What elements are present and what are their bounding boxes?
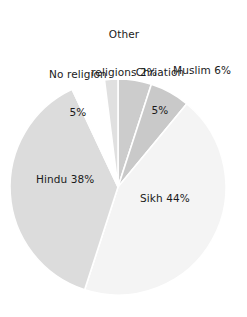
- slice-label-christian: Chriation 5%: [125, 41, 195, 141]
- slice-label-no-religion-line1: No religion: [38, 68, 118, 81]
- slice-label-no-religion-line2: 5%: [38, 106, 118, 119]
- pie-chart-figure: Other religions 2% No religion 5% Chriat…: [0, 0, 247, 317]
- slice-label-no-religion: No religion 5%: [38, 43, 118, 143]
- slice-label-hindu: Hindu 38%: [36, 173, 122, 186]
- slice-label-christian-line2: 5%: [125, 104, 195, 117]
- slice-label-other-religions-line1: Other: [76, 28, 172, 41]
- slice-label-sikh: Sikh 44%: [140, 192, 216, 205]
- slice-label-muslim: Muslim 6%: [173, 64, 245, 77]
